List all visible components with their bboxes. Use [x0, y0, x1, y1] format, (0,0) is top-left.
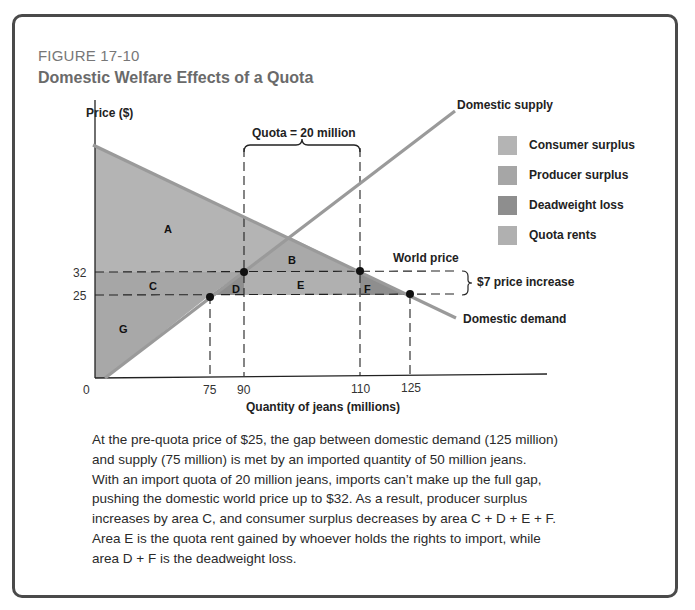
legend-item-consumer-surplus: Consumer surplus — [498, 130, 635, 160]
caption-line: pushing the domestic world price up to $… — [92, 489, 592, 509]
area-d-label: D — [232, 283, 240, 295]
point-90-32 — [240, 268, 248, 276]
legend-label: Consumer surplus — [529, 138, 635, 152]
area-b-label: B — [288, 254, 296, 266]
point-75-25 — [206, 293, 214, 301]
caption-line: Area E is the quota rent gained by whoev… — [92, 529, 592, 549]
legend: Consumer surplus Producer surplus Deadwe… — [498, 130, 635, 250]
legend-item-quota-rents: Quota rents — [498, 220, 635, 250]
price-increase-brace — [462, 271, 472, 295]
legend-item-producer-surplus: Producer surplus — [498, 160, 635, 190]
legend-label: Deadweight loss — [529, 198, 624, 212]
producer-surplus-swatch — [498, 166, 517, 185]
caption-line: With an import quota of 20 million jeans… — [92, 470, 592, 490]
x-axis-label: Quantity of jeans (millions) — [246, 400, 400, 414]
quota-brace — [244, 139, 360, 152]
x-tick-75: 75 — [203, 383, 217, 397]
quota-rents-swatch — [498, 226, 517, 245]
world-price-label: World price — [393, 251, 459, 265]
origin-label: 0 — [83, 383, 90, 397]
legend-label: Quota rents — [529, 228, 596, 242]
figure-caption: At the pre-quota price of $25, the gap b… — [92, 430, 592, 569]
consumer-surplus-swatch — [498, 136, 517, 155]
caption-line: At the pre-quota price of $25, the gap b… — [92, 430, 592, 450]
domestic-demand-label: Domestic demand — [463, 312, 566, 326]
legend-label: Producer surplus — [529, 168, 628, 182]
x-tick-90: 90 — [237, 383, 251, 397]
x-tick-125: 125 — [401, 381, 421, 395]
y-tick-32: 32 — [73, 266, 87, 280]
y-axis-label: Price ($) — [86, 106, 133, 120]
point-110-32 — [356, 267, 364, 275]
area-g-label: G — [119, 323, 128, 335]
area-g-producer-surplus — [95, 295, 210, 378]
price-increase-label: $7 price increase — [477, 275, 575, 289]
area-c-label: C — [149, 280, 157, 292]
x-axis — [95, 374, 547, 378]
x-tick-110: 110 — [351, 382, 370, 396]
caption-line: and supply (75 million) is met by an imp… — [92, 450, 592, 470]
area-e-label: E — [297, 279, 304, 291]
point-125-25 — [406, 290, 414, 298]
area-a-label: A — [164, 223, 172, 235]
area-f-label: F — [364, 283, 371, 295]
domestic-supply-label: Domestic supply — [457, 98, 553, 112]
caption-line: area D + F is the deadweight loss. — [92, 549, 592, 569]
deadweight-loss-swatch — [498, 196, 517, 215]
legend-item-deadweight-loss: Deadweight loss — [498, 190, 635, 220]
quota-label: Quota = 20 million — [252, 126, 356, 140]
y-tick-25: 25 — [73, 289, 87, 303]
caption-line: increases by area C, and consumer surplu… — [92, 509, 592, 529]
